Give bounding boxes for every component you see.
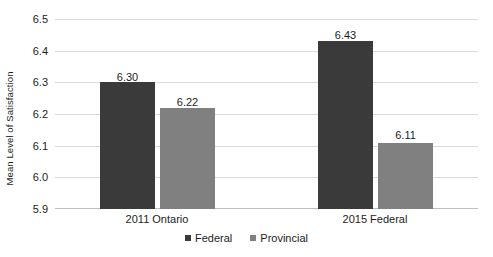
- y-tick-label: 6.5: [8, 14, 48, 25]
- bar-value-label: 6.11: [378, 130, 433, 141]
- bar-value-label: 6.30: [100, 72, 155, 83]
- legend: Federal Provincial: [0, 232, 493, 244]
- bar-2011-ontario-provincial[interactable]: [160, 108, 215, 209]
- legend-item-provincial[interactable]: Provincial: [250, 232, 308, 244]
- bar-2011-ontario-federal[interactable]: [100, 82, 155, 209]
- gridline: [55, 19, 478, 20]
- legend-item-federal[interactable]: Federal: [185, 232, 232, 244]
- gridline: [55, 51, 478, 52]
- bar-2015-federal-federal[interactable]: [318, 41, 373, 209]
- legend-swatch-icon: [250, 235, 256, 241]
- bar-value-label: 6.22: [160, 97, 215, 108]
- x-category-label-2015-federal: 2015 Federal: [310, 213, 440, 225]
- legend-label: Provincial: [260, 232, 308, 244]
- bar-value-label: 6.43: [318, 30, 373, 41]
- y-tick-label: 6.4: [8, 45, 48, 56]
- y-tick-label: 5.9: [8, 204, 48, 215]
- legend-swatch-icon: [185, 235, 191, 241]
- y-tick-label: 6.1: [8, 140, 48, 151]
- y-tick-label: 6.2: [8, 109, 48, 120]
- y-tick-label: 6.3: [8, 77, 48, 88]
- plot-area: [55, 19, 478, 209]
- bar-2015-federal-provincial[interactable]: [378, 143, 433, 210]
- legend-label: Federal: [195, 232, 232, 244]
- y-axis-tick-labels: 6.5 6.4 6.3 6.2 6.1 6.0 5.9: [0, 19, 55, 209]
- x-category-label-2011-ontario: 2011 Ontario: [92, 213, 222, 225]
- y-tick-label: 6.0: [8, 172, 48, 183]
- bar-chart: Mean Level of Satisfaction 6.5 6.4 6.3 6…: [0, 0, 493, 257]
